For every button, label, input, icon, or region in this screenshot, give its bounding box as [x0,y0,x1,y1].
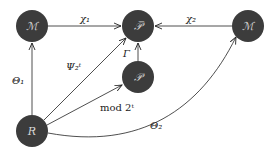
node-M1-label: ℳ [26,20,40,33]
label-theta1: Θ₁ [12,75,24,86]
node-R: R [16,115,48,147]
label-psi: Ψ₂ᵗ [66,61,82,72]
node-P: 𝒫 [122,61,154,93]
label-mod: mod 2ᵗ [100,102,134,113]
commutative-diagram: χ₁ χ₂ Θ₁ Ψ₂ᵗ Γ mod 2ᵗ Θ₂ ℳ 𝒫̅ ℳ 𝒫 R [0,0,273,152]
node-M2: ℳ [232,10,264,42]
label-chi1: χ₁ [79,13,90,24]
label-gamma: Γ [122,48,131,59]
node-M2-label: ℳ [242,20,256,33]
node-M1: ℳ [16,10,48,42]
node-Pbar: 𝒫̅ [122,10,154,42]
node-R-label: R [27,125,36,138]
label-theta2: Θ₂ [150,120,162,131]
label-chi2: χ₂ [185,13,196,24]
